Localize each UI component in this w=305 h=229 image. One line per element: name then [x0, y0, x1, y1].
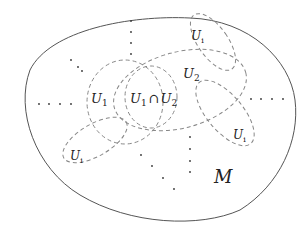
label-manifold-m: M — [213, 166, 233, 187]
manifold-cover-diagram: U1 U1∩U2 U2 Ui Ui Ui M — [0, 0, 305, 229]
open-set-ui-left — [56, 108, 134, 172]
label-u1: U1 — [91, 91, 108, 108]
open-set-ui-right — [185, 71, 264, 155]
label-ui-left: Ui — [70, 149, 83, 165]
label-intersection: U1∩U2 — [130, 91, 177, 108]
label-ui-top: Ui — [191, 29, 204, 45]
label-u2: U2 — [183, 66, 200, 83]
manifold-boundary — [25, 18, 296, 222]
label-ui-right: Ui — [233, 128, 246, 144]
